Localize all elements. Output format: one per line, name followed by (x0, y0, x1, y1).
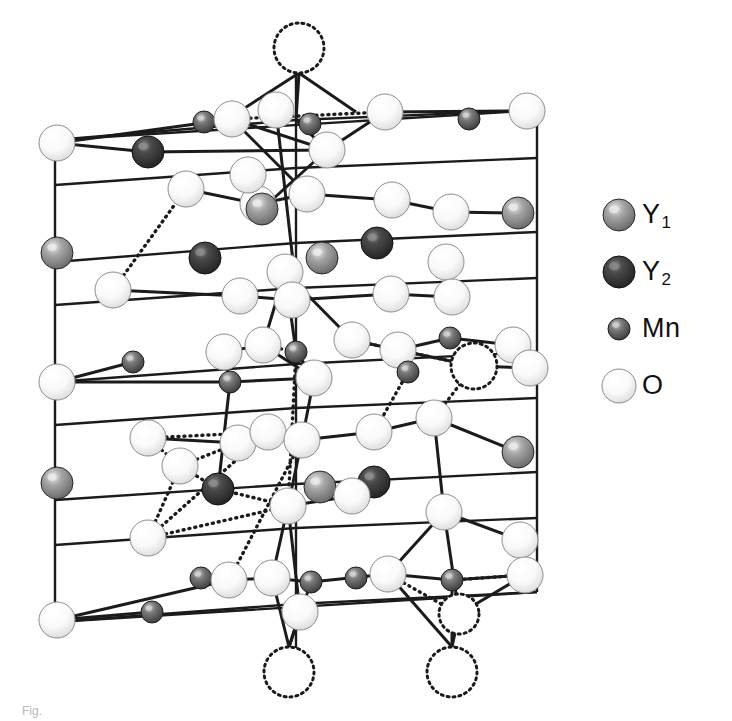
legend-label-text: Y (642, 256, 661, 286)
atom-Mn (300, 571, 322, 593)
atom-O (289, 176, 325, 212)
atom-O (270, 488, 306, 524)
cell-rail (296, 232, 537, 243)
atom-highlight (221, 108, 232, 117)
atom-O (250, 414, 286, 450)
atom-Y1 (246, 193, 278, 225)
atom-highlight (218, 569, 229, 578)
structure-diagram (0, 0, 600, 700)
atom-body (95, 272, 131, 308)
atom-body (39, 364, 75, 400)
atom-Y1 (306, 242, 338, 274)
atom-body (132, 136, 164, 168)
atom-body (356, 414, 392, 450)
atom-Y1 (41, 467, 73, 499)
cell-rail (296, 518, 537, 528)
atom-highlight (102, 279, 113, 288)
atom-O (512, 350, 548, 386)
atom-highlight (229, 285, 240, 294)
atom-highlight (508, 203, 518, 211)
atom-highlight (46, 609, 57, 618)
atom-O (274, 282, 310, 318)
atom-body (289, 176, 325, 212)
atom-highlight (46, 132, 57, 141)
atom-O (130, 420, 166, 456)
atom-highlight (208, 479, 218, 487)
atom-Y2 (202, 473, 234, 505)
atom-body (502, 197, 534, 229)
atom-O (309, 132, 345, 168)
cell-rail (296, 398, 537, 408)
atom-highlight (169, 455, 180, 464)
atom-body (39, 125, 75, 161)
atom-highlight (252, 199, 262, 207)
atom-highlight (47, 473, 57, 481)
atom-highlight (304, 575, 311, 580)
atom-body (345, 567, 367, 589)
cell-rail (55, 243, 296, 262)
atom-body (206, 334, 242, 370)
atom-body (334, 478, 370, 514)
atom-O (428, 244, 464, 280)
atom-body (41, 467, 73, 499)
atom-Y1 (41, 237, 73, 269)
atom-body (168, 171, 204, 207)
atom-O (39, 125, 75, 161)
atom-body (39, 602, 75, 638)
atom-body (211, 562, 247, 598)
atom-O (206, 334, 242, 370)
atom-highlight (46, 371, 57, 380)
atom-O (284, 422, 320, 458)
atom-highlight (367, 233, 377, 241)
atom-Y1 (502, 436, 534, 468)
atom-highlight (281, 289, 292, 298)
atom-highlight (380, 283, 391, 292)
atom-body (285, 341, 307, 363)
atom-body (433, 194, 469, 230)
bond (385, 111, 527, 112)
atom-highlight (257, 421, 268, 430)
sphere-icon (596, 367, 642, 405)
atom-highlight (445, 573, 452, 578)
atom-body (374, 182, 410, 218)
atom-highlight (387, 339, 398, 348)
figure-caption: Fig. (22, 703, 582, 719)
atom-body (426, 494, 462, 530)
atom-body (502, 436, 534, 468)
atom-body (246, 193, 278, 225)
legend-item-O: O (596, 357, 732, 414)
atom-body (141, 601, 163, 623)
legend-label-text: Mn (642, 313, 681, 343)
atom-body (274, 282, 310, 318)
atom-body (130, 420, 166, 456)
atom-body (189, 242, 221, 274)
atom-O (282, 594, 318, 630)
atom-O (374, 182, 410, 218)
atom-body (245, 327, 281, 363)
atom-body (300, 571, 322, 593)
atom-highlight (145, 605, 152, 610)
atom-body (509, 93, 545, 129)
atom-body (296, 360, 332, 396)
sphere-icon (596, 316, 642, 342)
atom-O (367, 94, 403, 130)
atom-highlight (508, 442, 518, 450)
atom-O (507, 557, 543, 593)
atom-Mn (441, 569, 463, 591)
atom-highlight (381, 189, 392, 198)
atom-body (439, 327, 461, 349)
atom-O (296, 360, 332, 396)
atom-highlight (310, 477, 320, 485)
atom-Mn (285, 341, 307, 363)
atom-O (214, 101, 250, 137)
atom-O (258, 92, 294, 128)
atom-highlight (516, 100, 527, 109)
atom-highlight (197, 115, 204, 120)
atom-Y2 (132, 136, 164, 168)
legend-label-text: O (642, 370, 664, 400)
atom-highlight (364, 472, 374, 480)
atom-Y2 (361, 227, 393, 259)
atom-highlight (341, 485, 352, 494)
atom-highlight (423, 407, 434, 416)
atom-O (254, 560, 290, 596)
